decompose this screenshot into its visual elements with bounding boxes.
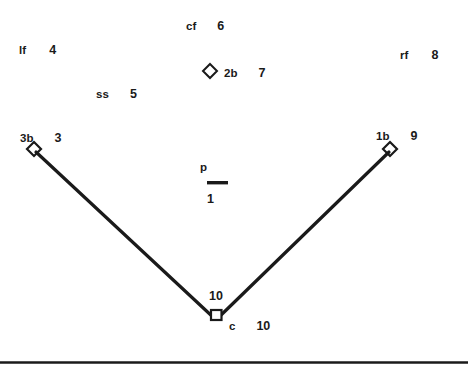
position-number-3b: 3 bbox=[55, 131, 62, 145]
position-abbr-ss: ss bbox=[96, 88, 109, 100]
position-label-first-base: 1b 9 bbox=[376, 127, 417, 143]
position-number-lf: 4 bbox=[49, 43, 56, 57]
position-number-2b: 7 bbox=[259, 66, 266, 80]
position-label-center-field: cf 6 bbox=[186, 17, 224, 33]
position-abbr-3b: 3b bbox=[20, 132, 34, 144]
position-number-p: 1 bbox=[207, 193, 214, 206]
position-label-left-field: lf 4 bbox=[19, 41, 56, 57]
position-number-catcher: 10 bbox=[256, 319, 270, 333]
field-graphics bbox=[0, 0, 468, 371]
position-abbr-2b: 2b bbox=[224, 67, 238, 79]
second-base-diamond bbox=[203, 64, 217, 78]
position-abbr-1b: 1b bbox=[376, 130, 390, 142]
pitchers-rubber bbox=[207, 181, 228, 184]
position-number-1b: 9 bbox=[411, 129, 418, 143]
position-number-cf: 6 bbox=[217, 19, 224, 33]
position-abbr-p: p bbox=[200, 162, 207, 174]
position-label-second-base: 2b 7 bbox=[224, 64, 265, 80]
position-label-catcher: c 10 bbox=[229, 317, 270, 333]
position-abbr-c: c bbox=[229, 320, 236, 332]
position-label-shortstop: ss 5 bbox=[96, 85, 137, 101]
position-label-right-field: rf 8 bbox=[400, 46, 438, 62]
position-abbr-rf: rf bbox=[400, 49, 409, 61]
home-plate bbox=[211, 310, 222, 320]
position-number-rf: 8 bbox=[431, 48, 438, 62]
baseball-field-diagram: cf 6 lf 4 rf 8 2b 7 ss 5 3b 3 1b 9 p 1 bbox=[0, 0, 468, 371]
position-number-ss: 5 bbox=[130, 87, 137, 101]
third-base-foul-line bbox=[36, 152, 214, 318]
position-abbr-cf: cf bbox=[186, 20, 196, 32]
first-base-foul-line bbox=[218, 152, 389, 318]
position-number-c: 10 bbox=[209, 290, 223, 303]
position-label-third-base: 3b 3 bbox=[20, 129, 61, 145]
position-abbr-lf: lf bbox=[19, 44, 26, 56]
